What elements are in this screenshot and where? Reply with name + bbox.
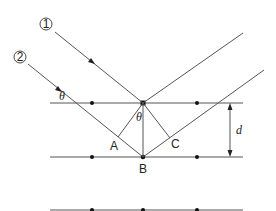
ray-2-incident xyxy=(28,64,143,157)
ray-1-reflected xyxy=(143,33,243,103)
ray-2-reflected xyxy=(143,70,264,157)
theta-apex-label: θ xyxy=(136,110,142,124)
point-b-label: B xyxy=(139,162,147,176)
ray-1-incident xyxy=(55,32,143,103)
point-c-label: C xyxy=(171,137,180,151)
point-a-label: A xyxy=(110,139,118,153)
ray-2-label: 2 xyxy=(17,50,24,64)
spacing-label: d xyxy=(236,123,243,137)
theta-incident-label: θ xyxy=(59,89,65,103)
line-to-c xyxy=(143,103,170,138)
bragg-diagram: 1 2 θ θ A B C d xyxy=(0,0,276,211)
arrow-up-icon xyxy=(228,103,233,110)
ray-1-label: 1 xyxy=(43,17,50,31)
arrow-down-icon xyxy=(228,150,233,157)
